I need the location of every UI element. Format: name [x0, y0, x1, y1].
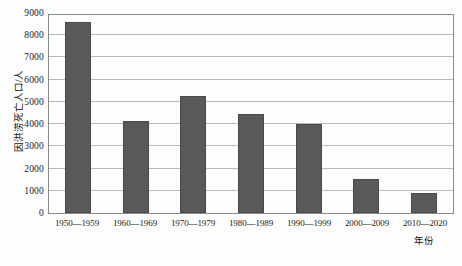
flood-deaths-bar-chart: 0100020003000400050006000700080009000 因洪…: [0, 0, 462, 266]
x-axis-tick-label: 2010—2020: [396, 218, 454, 228]
x-axis-tick-label: 1960—1969: [106, 218, 164, 228]
bar: [180, 96, 206, 213]
y-axis-tick-label: 1000: [2, 187, 44, 197]
bar-slot: [49, 15, 107, 213]
y-axis-tick-label: 8000: [2, 31, 44, 41]
x-axis-tick-label: 1950—1959: [48, 218, 106, 228]
y-axis-tick-label: 0: [2, 209, 44, 219]
bar: [411, 193, 437, 213]
bar-slot: [107, 15, 165, 213]
bar: [65, 22, 91, 213]
x-axis-tick-label: 2000—2009: [338, 218, 396, 228]
bar-slot: [164, 15, 222, 213]
x-axis-tick-label: 1970—1979: [164, 218, 222, 228]
bar-slot: [338, 15, 396, 213]
x-axis-tick-label: 1990—1999: [280, 218, 338, 228]
bar: [123, 121, 149, 213]
bar-slot: [280, 15, 338, 213]
bar: [296, 124, 322, 213]
y-axis-tick-label: 9000: [2, 9, 44, 19]
bar-slot: [395, 15, 453, 213]
x-axis-tick-label: 1980—1989: [222, 218, 280, 228]
plot-area: [48, 14, 454, 214]
bar: [238, 114, 264, 213]
x-axis-title: 年份: [394, 233, 454, 247]
x-axis-tick-labels: 1950—19591960—19691970—19791980—19891990…: [48, 218, 454, 228]
bar: [353, 179, 379, 213]
bar-slot: [222, 15, 280, 213]
bar-series: [49, 15, 453, 213]
y-axis-title: 因洪涝死亡人口/人: [11, 46, 25, 176]
